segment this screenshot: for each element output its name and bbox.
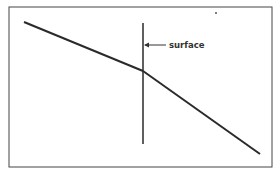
incident-ray [24, 22, 143, 71]
arrowhead-icon [144, 43, 149, 48]
surface-label: surface [169, 40, 205, 50]
refracted-ray [143, 71, 260, 154]
speck-mark [215, 12, 217, 14]
surface-label-pointer [144, 43, 166, 48]
refraction-diagram: surface [0, 0, 280, 173]
